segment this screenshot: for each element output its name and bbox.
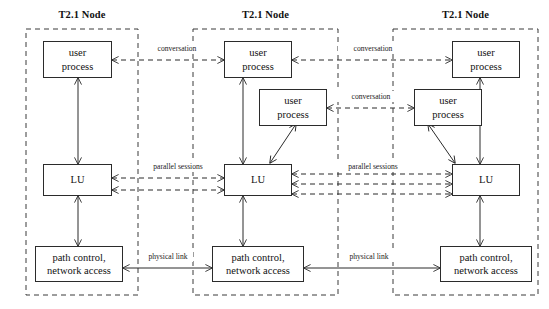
edge-label-conversation-middle-right-second: conversation (336, 91, 406, 102)
left-path-control-line2: network access (47, 264, 111, 277)
middle-path-control-box[interactable]: path control, network access (212, 246, 304, 282)
right-user-process-2-line2: process (432, 108, 464, 121)
node-title-middle: T2.1 Node (193, 9, 338, 20)
left-path-control-box[interactable]: path control, network access (35, 246, 123, 282)
physical-link-left-line2: link (176, 252, 188, 261)
edge-label-physical-link-left-middle: physical link (143, 251, 193, 262)
right-user-process-2-box[interactable]: user process (414, 89, 482, 126)
middle-lu-box[interactable]: LU (224, 164, 292, 196)
physical-link-left-line1: physical (148, 252, 173, 261)
node-title-right: T2.1 Node (393, 9, 538, 20)
middle-path-control-line2: network access (226, 264, 290, 277)
right-lu-label: LU (479, 173, 493, 186)
connector-right-up2-to-lu (428, 124, 455, 163)
middle-user-process-2-box[interactable]: user process (259, 89, 327, 126)
diagram-canvas: T2.1 Node T2.1 Node T2.1 Node user proce… (0, 0, 549, 309)
middle-user-process-2-line2: process (277, 108, 309, 121)
middle-user-process-1-line2: process (242, 60, 274, 73)
node-title-left: T2.1 Node (26, 9, 138, 20)
left-lu-label: LU (71, 173, 85, 186)
physical-link-right-line2: link (377, 252, 389, 261)
left-user-process-box[interactable]: user process (43, 41, 112, 78)
middle-path-control-line1: path control, (231, 251, 284, 264)
right-lu-box[interactable]: LU (452, 164, 520, 196)
middle-user-process-1-box[interactable]: user process (224, 41, 292, 78)
connector-parallel-sessions-left-middle (112, 178, 224, 190)
left-user-process-line2: process (62, 60, 94, 73)
edge-label-physical-link-middle-right: physical link (344, 251, 394, 262)
edge-label-conversation-left-middle: conversation (142, 43, 212, 54)
right-user-process-1-line1: user (477, 46, 495, 59)
middle-lu-label: LU (251, 173, 265, 186)
edge-label-parallel-sessions-middle-right: parallel sessions (334, 161, 412, 172)
left-path-control-line1: path control, (52, 251, 105, 264)
middle-user-process-1-line1: user (249, 46, 267, 59)
connector-parallel-sessions-middle-right (292, 174, 452, 194)
edge-label-parallel-sessions-left-middle: parallel sessions (139, 161, 217, 172)
right-path-control-line2: network access (454, 264, 518, 277)
right-path-control-line1: path control, (459, 251, 512, 264)
edge-label-conversation-middle-right: conversation (338, 43, 408, 54)
right-user-process-1-box[interactable]: user process (452, 41, 520, 78)
physical-link-right-line1: physical (349, 252, 374, 261)
right-user-process-2-line1: user (439, 94, 457, 107)
left-user-process-line1: user (69, 46, 87, 59)
right-user-process-1-line2: process (470, 60, 502, 73)
left-lu-box[interactable]: LU (43, 164, 112, 196)
middle-user-process-2-line1: user (284, 94, 302, 107)
connector-middle-up2-to-lu (270, 124, 296, 163)
right-path-control-box[interactable]: path control, network access (440, 246, 532, 282)
